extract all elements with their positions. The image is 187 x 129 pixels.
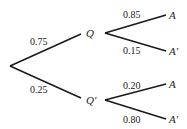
prob-q-prime-a-prime: 0.80 <box>123 114 141 125</box>
probability-tree-diagram: 0.75 0.25 Q Q′ 0.85 0.15 A A′ 0.20 0.80 … <box>0 0 187 129</box>
node-q: Q <box>86 27 94 39</box>
prob-q-prime-a: 0.20 <box>123 80 141 91</box>
node-q-a-prime: A′ <box>168 45 179 57</box>
prob-q-a: 0.85 <box>123 9 141 20</box>
node-q-prime-a-prime: A′ <box>168 113 179 125</box>
node-q-a: A <box>168 9 176 21</box>
prob-q: 0.75 <box>30 36 48 47</box>
prob-q-a-prime: 0.15 <box>123 45 141 56</box>
node-q-prime-a: A <box>168 78 176 90</box>
node-q-prime: Q′ <box>86 94 97 106</box>
prob-q-prime: 0.25 <box>30 84 48 95</box>
